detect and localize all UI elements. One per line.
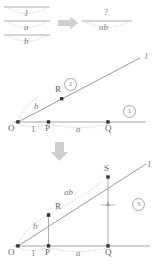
middle-line-label-l: l	[145, 52, 148, 61]
bottom-segment-label-a: a	[76, 249, 81, 258]
middle-segment-label-b: b	[34, 102, 39, 111]
ratio-numerator-1: 1	[24, 9, 29, 18]
bottom-construction	[14, 164, 150, 252]
figure-canvas: 1 a b ? ab l 2 1 R O P Q b 1 a l S R O P…	[0, 0, 156, 265]
middle-point-label-O: O	[8, 124, 15, 133]
badge-step-3: 3	[132, 198, 145, 211]
bottom-point-label-P: P	[45, 248, 50, 257]
badge-step-2: 2	[64, 78, 77, 91]
bottom-segment-label-1: 1	[31, 249, 36, 258]
ratio-term-a: a	[24, 23, 29, 32]
middle-segment-label-1: 1	[31, 125, 36, 134]
bottom-point-label-O: O	[8, 248, 15, 257]
middle-point-label-Q: Q	[105, 124, 112, 133]
bottom-point-label-S: S	[104, 164, 109, 173]
result-product-ab: ab	[99, 23, 108, 32]
bottom-segment-label-b: b	[33, 222, 38, 231]
middle-segment-label-a: a	[76, 125, 81, 134]
transform-arrow-shape	[58, 17, 78, 30]
bottom-point-label-Q: Q	[105, 248, 112, 257]
badge-step-1: 1	[123, 105, 136, 118]
down-arrow-shape	[51, 142, 68, 161]
bottom-point-label-R: R	[55, 202, 61, 211]
result-unknown: ?	[104, 8, 108, 17]
bottom-segment-label-ab: ab	[64, 188, 73, 197]
middle-point-label-P: P	[45, 124, 50, 133]
ratio-term-b: b	[24, 37, 29, 46]
middle-point-label-R: R	[55, 85, 61, 94]
bottom-line-label-l: l	[148, 160, 151, 169]
